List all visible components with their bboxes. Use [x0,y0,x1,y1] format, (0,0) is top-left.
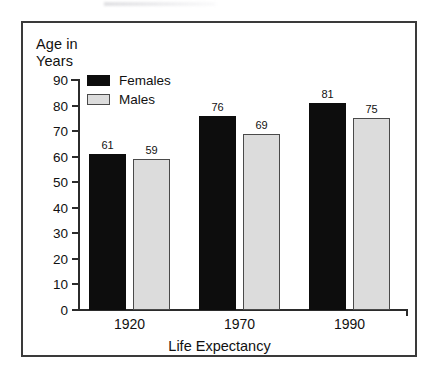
bar-value-label: 59 [145,144,157,156]
bar-value-label: 61 [101,139,113,151]
y-axis-tick-label: 80 [28,98,68,113]
bar-males-1970 [243,134,280,310]
bar-males-1920 [133,159,170,310]
bar-females-1970 [199,116,236,310]
y-axis-tick-labels: 9080706050403020100 [26,0,68,377]
plot-area: 615976698175 [78,80,408,310]
y-axis-tick-label: 90 [28,73,68,88]
x-axis-category-label: 1970 [224,316,255,332]
x-axis-category-label: 1990 [334,316,365,332]
bar-value-label: 81 [321,88,333,100]
x-axis-title: Life Expectancy [0,338,439,354]
x-axis-right-endcap [406,309,408,316]
bar-value-label: 69 [255,119,267,131]
y-axis-tick-label: 60 [28,149,68,164]
bar-value-label: 75 [365,103,377,115]
bar-females-1920 [89,154,126,310]
y-axis-tick-label: 40 [28,200,68,215]
y-axis-tick-label: 0 [28,303,68,318]
y-axis-tick-label: 10 [28,277,68,292]
y-axis-tick-label: 30 [28,226,68,241]
x-axis-category-label: 1920 [114,316,145,332]
bar-value-label: 76 [211,101,223,113]
scan-artifact [104,2,216,6]
y-axis-tick-label: 70 [28,124,68,139]
bar-males-1990 [353,118,390,310]
y-axis-tick-label: 20 [28,251,68,266]
y-axis-tick-label: 50 [28,175,68,190]
bar-females-1990 [309,103,346,310]
